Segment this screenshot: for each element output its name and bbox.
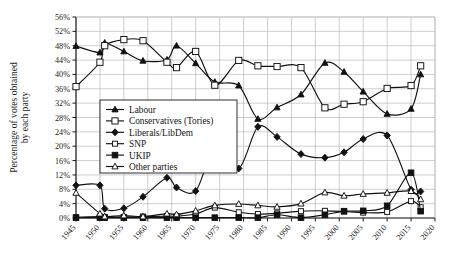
data-point-marker [73, 215, 79, 221]
y-tick-label: 36% [55, 85, 70, 94]
data-point-marker [140, 38, 146, 44]
legend-item-label: SNP [129, 139, 146, 149]
data-point-marker [236, 57, 242, 63]
x-tick-label: 1990 [275, 223, 293, 241]
data-point-marker [73, 190, 79, 196]
y-tick-label: 28% [55, 114, 70, 123]
data-point-marker [274, 104, 280, 110]
legend: LabourConservatives (Tories)Liberals/Lib… [100, 100, 237, 173]
data-point-marker [193, 215, 199, 221]
x-tick-label: 1995 [299, 223, 317, 241]
data-point-marker [102, 205, 108, 212]
data-point-marker [384, 85, 390, 91]
y-tick-label: 12% [55, 171, 70, 180]
legend-marker-icon [112, 152, 118, 158]
data-point-marker [164, 59, 170, 65]
x-tick-label: 1985 [251, 223, 269, 241]
data-point-marker [322, 105, 328, 111]
x-tick-label: 1955 [107, 223, 125, 241]
data-point-marker [102, 43, 108, 49]
legend-item-label: Labour [129, 105, 157, 115]
x-tick-label: 1950 [84, 223, 102, 241]
x-tick-label: 2015 [395, 223, 413, 241]
data-point-marker [385, 209, 390, 214]
x-tick-label: 1960 [131, 223, 149, 241]
data-point-marker [173, 65, 179, 71]
election-vote-share-chart: 0%4%8%12%16%20%24%28%32%36%40%44%48%52%5… [0, 0, 450, 266]
data-point-marker [236, 210, 241, 215]
y-tick-label: 16% [55, 157, 70, 166]
x-tick-label: 1980 [227, 223, 245, 241]
data-point-marker [97, 182, 103, 189]
data-point-marker [121, 205, 127, 212]
y-tick-label: 4% [59, 200, 70, 209]
legend-item-label: Other parties [129, 162, 178, 172]
legend-item-label: Conservatives (Tories) [129, 116, 213, 127]
y-axis-title: Percentage of votes obtainedby each part… [8, 62, 30, 173]
data-point-marker [164, 174, 170, 181]
x-tick-label: 2010 [371, 223, 389, 241]
x-tick-label: 1945 [60, 223, 78, 241]
data-point-marker [360, 99, 366, 105]
x-axis-ticks: 1945195019551960196519701975198019851990… [60, 218, 437, 242]
y-tick-label: 44% [55, 56, 70, 65]
data-point-marker [97, 59, 103, 65]
legend-item-label: Liberals/LibDem [129, 128, 194, 138]
data-point-marker [298, 215, 304, 221]
data-point-marker [360, 208, 366, 214]
data-point-marker [408, 82, 414, 88]
legend-item-label: UKIP [129, 151, 151, 161]
x-tick-label: 1965 [155, 223, 173, 241]
data-point-marker [193, 48, 199, 54]
data-point-marker [274, 133, 280, 140]
data-point-marker [236, 82, 242, 88]
data-point-marker [408, 106, 414, 112]
data-point-marker [274, 212, 280, 218]
legend-marker-icon [112, 118, 118, 124]
legend-marker-icon [113, 141, 118, 146]
y-tick-label: 0% [59, 214, 70, 223]
y-tick-label: 40% [55, 70, 70, 79]
data-point-marker [341, 101, 347, 107]
y-tick-label: 52% [55, 27, 70, 36]
data-point-marker [418, 63, 424, 69]
y-tick-label: 56% [55, 13, 70, 22]
y-tick-label: 32% [55, 99, 70, 108]
data-point-marker [298, 209, 303, 214]
y-axis-title-line1: Percentage of votes obtained [8, 62, 19, 173]
data-point-marker [409, 199, 414, 204]
data-point-marker [322, 154, 328, 161]
data-point-marker [418, 208, 424, 214]
x-tick-label: 2005 [347, 223, 365, 241]
y-tick-label: 20% [55, 142, 70, 151]
data-point-marker [121, 37, 127, 43]
y-axis-ticks: 0%4%8%12%16%20%24%28%32%36%40%44%48%52%5… [55, 13, 76, 223]
data-point-marker [212, 215, 218, 221]
data-point-marker [360, 136, 366, 143]
data-point-marker [322, 212, 328, 218]
x-tick-label: 2020 [419, 223, 437, 241]
y-tick-label: 8% [59, 185, 70, 194]
data-point-marker [73, 84, 79, 90]
y-tick-label: 24% [55, 128, 70, 137]
data-point-marker [173, 42, 179, 48]
series-line [76, 173, 421, 218]
data-point-marker [236, 215, 242, 221]
data-point-marker [73, 182, 79, 189]
data-point-marker [341, 149, 347, 156]
y-axis-title-line2: by each party [19, 91, 30, 143]
data-point-marker [408, 170, 414, 176]
data-point-marker [298, 65, 304, 71]
data-point-marker [274, 63, 280, 69]
data-point-marker [298, 151, 304, 158]
x-tick-label: 1970 [179, 223, 197, 241]
x-tick-label: 1975 [203, 223, 221, 241]
data-point-marker [341, 208, 347, 214]
data-point-marker [212, 82, 218, 88]
chart-canvas: 0%4%8%12%16%20%24%28%32%36%40%44%48%52%5… [0, 0, 450, 266]
x-tick-label: 2000 [323, 223, 341, 241]
data-point-marker [255, 215, 261, 221]
data-point-marker [384, 203, 390, 209]
data-point-marker [255, 63, 261, 69]
y-tick-label: 48% [55, 42, 70, 51]
